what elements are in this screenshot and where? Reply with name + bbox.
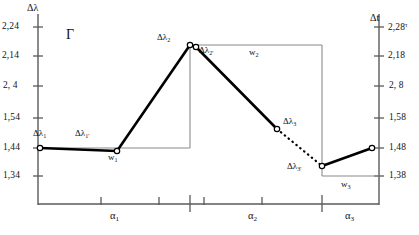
right-tick-label-2: 2, 8 (389, 81, 404, 91)
point-label-lambda2-sub: 2 (167, 37, 170, 43)
left-tick-label-0: 2,24 (2, 22, 19, 32)
tau-superscript: τ (405, 21, 408, 28)
region-label-alpha3: α3 (345, 211, 354, 223)
width-label-w3: w3 (341, 180, 351, 190)
marker-lambda3[interactable] (274, 126, 279, 131)
point-label-lambda2: Δλ2 (157, 33, 170, 43)
point-label-lambda2p-sub: 2' (209, 50, 213, 56)
marker-lambda2p[interactable] (193, 44, 198, 49)
right-tick-label-5: 1,38 (389, 171, 406, 181)
point-label-lambda1-sub: 1 (43, 133, 46, 139)
region-label-alpha1-sub: 1 (116, 215, 120, 223)
point-label-lambda1p-sub: 1' (85, 133, 89, 139)
right-tick-label-1: 2,18 (388, 51, 405, 61)
marker-endpoint[interactable] (369, 145, 374, 150)
point-label-lambda1p: Δλ1' (75, 129, 89, 139)
data-line-tail (322, 148, 372, 166)
width-guides-group (38, 45, 379, 176)
point-label-lambda3-sub: 3 (293, 121, 296, 127)
right-tick-label-4: 1,48 (389, 143, 406, 153)
width-label-w2: w2 (249, 48, 259, 58)
point-label-lambda3p: Δλ3' (287, 162, 301, 172)
point-label-lambda3: Δλ3 (283, 117, 296, 127)
right-tick-label-0: 2,28τ (388, 22, 408, 33)
left-tick-label-2: 2, 4 (3, 81, 18, 91)
point-label-lambda2-base: Δλ (157, 32, 167, 42)
width-label-w1-sub: 1 (115, 157, 118, 163)
left-axis-title: Δλ (27, 3, 38, 13)
marker-lambda1[interactable] (37, 145, 42, 150)
marker-lambda2[interactable] (187, 42, 192, 47)
width-label-w2-sub: 2 (256, 52, 259, 58)
width-label-w3-sub: 3 (348, 184, 351, 190)
plot-canvas (0, 0, 419, 235)
point-label-lambda3p-sub: 3' (297, 166, 301, 172)
right-tick-label-3: 1,58 (389, 113, 406, 123)
left-tick-label-5: 1,34 (3, 171, 20, 181)
region-label-alpha2-sub: 2 (254, 215, 258, 223)
point-label-lambda3p-base: Δλ (287, 161, 297, 171)
right-tick-text-0: 2,28 (388, 22, 405, 32)
region-label-alpha3-sub: 3 (351, 215, 355, 223)
left-tick-label-4: 1,44 (3, 143, 20, 153)
point-label-lambda1: Δλ1 (33, 129, 46, 139)
point-label-lambda2p: Δλ2' (199, 46, 213, 56)
region-label-alpha2: α2 (248, 211, 257, 223)
region-label-alpha1: α1 (110, 211, 119, 223)
dotted-transition-segment (277, 129, 322, 166)
point-label-lambda3-base: Δλ (283, 116, 293, 126)
point-label-lambda1p-base: Δλ (75, 128, 85, 138)
point-label-lambda2p-base: Δλ (199, 45, 209, 55)
left-tick-label-1: 2,14 (2, 51, 19, 61)
axes-group (33, 14, 384, 212)
figure-container: Δλ Δt Γ 2,24 2,14 2, 4 1,54 1,44 1,34 2,… (0, 0, 419, 235)
left-tick-label-3: 1,54 (3, 113, 20, 123)
point-label-lambda1-base: Δλ (33, 128, 43, 138)
width-label-w1: w1 (108, 153, 118, 163)
page-title: Γ (66, 28, 74, 42)
marker-lambda3p[interactable] (319, 163, 324, 168)
right-axis-title: Δt (370, 13, 379, 23)
